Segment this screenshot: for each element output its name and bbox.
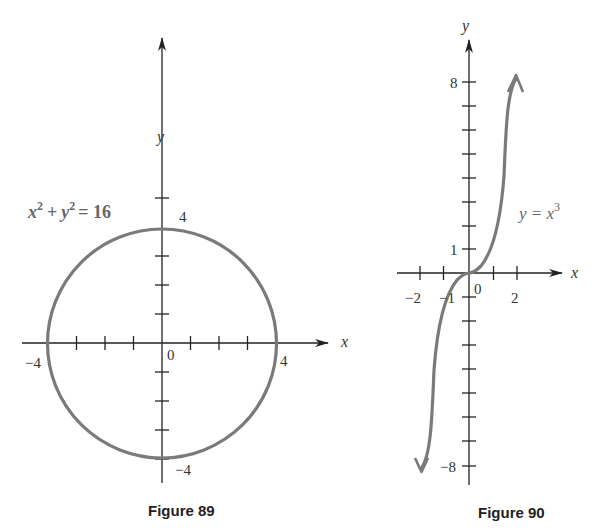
fig89-x-axis-label: x bbox=[340, 333, 348, 350]
fig90-y-axis-label: y bbox=[460, 17, 470, 35]
fig90-equation-label: y = x3 bbox=[517, 200, 560, 223]
fig89-y-neg-label: −4 bbox=[175, 462, 191, 478]
fig89-x-neg-label: −4 bbox=[25, 355, 41, 371]
fig89-caption: Figure 89 bbox=[148, 502, 215, 519]
fig90-y-one-label: 1 bbox=[450, 242, 458, 258]
fig90-y-pos-label: 8 bbox=[450, 75, 458, 91]
fig90-x-axis-label: x bbox=[570, 264, 578, 281]
fig90-caption: Figure 90 bbox=[478, 504, 545, 521]
fig90-x-neg1-label: −1 bbox=[439, 290, 455, 306]
figure-90: x y 0 2 −2 −1 1 8 −8 y = x3 Figure 90 bbox=[397, 17, 578, 521]
fig90-x-pos-label: 2 bbox=[511, 290, 519, 306]
fig90-x-neg2-label: −2 bbox=[405, 290, 421, 306]
fig90-origin-label: 0 bbox=[474, 281, 482, 297]
fig90-y-neg-label: −8 bbox=[440, 459, 456, 475]
fig89-y-pos-label: 4 bbox=[179, 209, 187, 225]
figure-89: x y 0 4 −4 4 −4 x2+y2= 16 Figure 89 bbox=[22, 38, 348, 519]
fig89-y-axis-label: y bbox=[155, 128, 165, 146]
fig89-x-pos-label: 4 bbox=[280, 353, 288, 369]
fig89-equation-label: x2+y2= 16 bbox=[27, 199, 111, 222]
fig89-origin-label: 0 bbox=[167, 347, 175, 363]
figures-canvas: x y 0 4 −4 4 −4 x2+y2= 16 Figure 89 bbox=[0, 0, 607, 530]
fig90-curve-top-arrow-icon bbox=[508, 75, 523, 92]
